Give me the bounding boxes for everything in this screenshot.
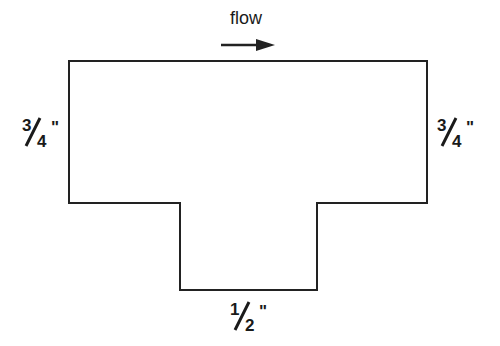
- left-unit: ": [51, 118, 59, 137]
- tee-fitting-diagram: flow 3 4 " 3 4 " 1 2 ": [0, 0, 500, 346]
- bottom-size-label: 1 2 ": [230, 300, 267, 335]
- flow-arrow-icon: [221, 39, 275, 51]
- bottom-numerator: 1: [230, 300, 239, 319]
- left-denominator: 4: [37, 132, 47, 151]
- left-size-label: 3 4 ": [22, 116, 59, 151]
- right-size-label: 3 4 ": [437, 116, 474, 151]
- tee-outline: [69, 61, 427, 290]
- flow-label: flow: [230, 8, 263, 28]
- bottom-denominator: 2: [245, 316, 254, 335]
- right-unit: ": [466, 118, 474, 137]
- right-denominator: 4: [452, 132, 462, 151]
- left-numerator: 3: [22, 116, 31, 135]
- bottom-unit: ": [259, 302, 267, 321]
- right-numerator: 3: [437, 116, 446, 135]
